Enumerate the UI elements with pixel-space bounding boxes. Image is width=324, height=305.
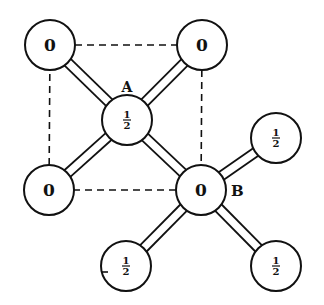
svg-text:1: 1	[124, 109, 131, 120]
svg-text:2: 2	[273, 266, 280, 277]
bond-line	[146, 132, 188, 172]
bond-line	[146, 64, 190, 108]
bond-line	[138, 202, 182, 247]
diagram-canvas: 001212001212AB	[0, 0, 324, 305]
bond-line	[217, 147, 256, 174]
zero-label: 0	[44, 35, 56, 55]
bond-line	[139, 57, 183, 101]
dashed-edge	[201, 70, 202, 165]
half-label: 12	[272, 255, 280, 277]
bond-line	[220, 202, 264, 247]
dashed-edge	[49, 70, 50, 165]
zero-label: 0	[196, 35, 208, 55]
bond-line	[145, 209, 189, 254]
svg-text:1: 1	[123, 255, 130, 266]
svg-text:2: 2	[123, 266, 130, 277]
svg-text:2: 2	[124, 120, 131, 131]
zero-label: 0	[195, 180, 207, 200]
bond-line	[222, 154, 261, 181]
bond-line	[213, 209, 257, 254]
svg-text:1: 1	[273, 255, 280, 266]
half-label: 12	[123, 109, 131, 131]
bond-line	[68, 138, 113, 179]
svg-text:1: 1	[273, 127, 280, 138]
label-A: A	[121, 79, 134, 95]
svg-text:2: 2	[273, 138, 280, 149]
lattice-diagram: 001212001212AB	[0, 0, 324, 305]
zero-label: 0	[43, 180, 55, 200]
bond-line	[63, 64, 108, 108]
bond-line	[69, 57, 114, 101]
label-B: B	[231, 182, 244, 200]
half-label: 12	[122, 255, 130, 277]
bond-line	[140, 138, 182, 178]
bond-line	[62, 131, 107, 172]
half-label: 12	[272, 127, 280, 149]
